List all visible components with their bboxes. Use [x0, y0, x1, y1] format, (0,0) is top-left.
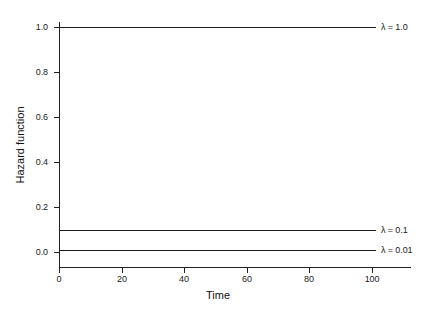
y-tick-label-0.8: 0.8	[36, 67, 48, 77]
series-line-lambda-1.0	[59, 27, 376, 28]
x-tick-80	[309, 268, 310, 273]
y-tick-label-0.4: 0.4	[36, 157, 48, 167]
x-axis-title-text: Time	[206, 289, 230, 301]
x-tick-60	[247, 268, 248, 273]
x-tick-label-40: 40	[179, 274, 189, 284]
x-tick-0	[59, 268, 60, 273]
x-tick-label-20: 20	[117, 274, 127, 284]
x-tick-label-100: 100	[365, 274, 380, 284]
x-tick-label-80: 80	[304, 274, 314, 284]
x-tick-20	[122, 268, 123, 273]
series-line-lambda-0.1	[59, 230, 376, 231]
y-tick-label-1.0: 1.0	[36, 22, 48, 32]
series-label-lambda-0.01: λ = 0.01	[381, 245, 412, 255]
x-tick-100	[372, 268, 373, 273]
y-tick-label-0.2: 0.2	[36, 202, 48, 212]
x-tick-label-60: 60	[242, 274, 252, 284]
plot-area: 1.0 0.8 0.6 0.4 0.2 0.0 0 20 40 60 80 10…	[0, 0, 428, 317]
x-axis-title: Time	[0, 289, 428, 301]
y-axis-title-text: Hazard function	[14, 106, 26, 183]
y-tick-0.2	[54, 207, 59, 208]
x-tick-label-0: 0	[57, 274, 62, 284]
x-axis-line	[59, 267, 411, 268]
series-line-lambda-0.01	[59, 250, 376, 251]
hazard-function-chart: 1.0 0.8 0.6 0.4 0.2 0.0 0 20 40 60 80 10…	[0, 0, 428, 317]
series-label-lambda-1.0: λ = 1.0	[381, 22, 408, 32]
y-tick-label-0.6: 0.6	[36, 112, 48, 122]
y-tick-0.4	[54, 162, 59, 163]
series-label-lambda-0.1: λ = 0.1	[381, 225, 408, 235]
x-tick-40	[184, 268, 185, 273]
y-axis-title: Hazard function	[0, 0, 40, 290]
y-tick-0.0	[54, 252, 59, 253]
y-tick-label-0.0: 0.0	[36, 247, 48, 257]
y-tick-0.8	[54, 72, 59, 73]
y-tick-0.6	[54, 117, 59, 118]
